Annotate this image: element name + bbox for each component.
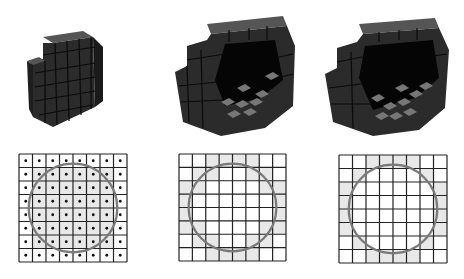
sample-point-dot [65,159,68,162]
sample-point-dot [92,173,95,176]
sample-point-dot [92,240,95,243]
sample-point-dot [92,227,95,230]
sample-point-dot [78,213,81,216]
sample-point-dot [78,159,81,162]
sample-point-dot [78,240,81,243]
sample-point-dot [38,213,41,216]
sample-point-dot [65,173,68,176]
sample-point-dot [78,254,81,257]
sample-point-dot [92,159,95,162]
sample-point-dot [105,254,108,257]
sample-point-dot [51,200,54,203]
sample-point-dot [119,227,122,230]
sample-point-dot [38,159,41,162]
sample-point-dot [119,173,122,176]
sample-point-dot [51,159,54,162]
sample-point-dot [78,227,81,230]
sample-point-dot [51,240,54,243]
sample-point-dot [51,227,54,230]
sample-point-dot [65,200,68,203]
sample-point-dot [105,227,108,230]
sample-point-dot [119,254,122,257]
voxel-render-shell-thick [165,10,300,140]
sample-point-dot [24,254,27,257]
sample-point-dot [38,173,41,176]
sample-point-dot [38,240,41,243]
sample-point-dot [51,173,54,176]
sample-point-dot [92,213,95,216]
sample-point-dot [78,186,81,189]
sample-point-dot [65,254,68,257]
sample-point-dot [105,240,108,243]
sample-point-dot [105,200,108,203]
grid-shell-thick [178,153,287,262]
sample-point-dot [51,213,54,216]
sample-point-dot [119,213,122,216]
sample-point-dot [65,227,68,230]
sample-point-dot [119,240,122,243]
sample-point-dot [78,200,81,203]
sample-point-dot [65,186,68,189]
sample-point-dot [38,200,41,203]
sample-point-dot [65,240,68,243]
sample-point-dot [24,240,27,243]
sample-point-dot [92,254,95,257]
sample-point-dot [24,186,27,189]
sample-point-dot [51,186,54,189]
sample-point-dot [105,159,108,162]
sample-point-dot [92,200,95,203]
sample-point-dot [24,200,27,203]
grid-solid [18,153,128,263]
sample-point-dot [38,186,41,189]
sample-point-dot [24,173,27,176]
sample-point-dot [38,254,41,257]
sample-point-dot [78,173,81,176]
sample-point-dot [92,186,95,189]
sample-point-dot [105,173,108,176]
sample-point-dot [105,213,108,216]
sample-point-dot [105,186,108,189]
sample-point-dot [119,200,122,203]
voxel-render-solid [25,25,105,135]
grid-shell-thin [338,154,448,264]
sample-point-dot [65,213,68,216]
sample-point-dot [24,227,27,230]
voxel-render-shell-thin [315,12,455,140]
sample-point-dot [38,227,41,230]
sample-point-dot [119,186,122,189]
sample-point-dot [24,213,27,216]
sample-point-dot [24,159,27,162]
sample-point-dot [119,159,122,162]
sample-point-dot [51,254,54,257]
